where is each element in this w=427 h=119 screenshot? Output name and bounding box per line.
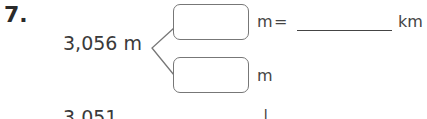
- unit-m-top: m: [257, 12, 273, 31]
- unit-m-bottom: m: [257, 66, 273, 85]
- next-measurement-value: 3,051: [63, 106, 117, 119]
- answer-box-top[interactable]: [173, 4, 249, 40]
- unit-km: km: [398, 12, 423, 31]
- equals-sign: =: [274, 12, 287, 31]
- answer-blank-km[interactable]: [297, 30, 392, 31]
- next-row-mark: |: [263, 106, 268, 119]
- answer-box-bottom[interactable]: [173, 57, 249, 93]
